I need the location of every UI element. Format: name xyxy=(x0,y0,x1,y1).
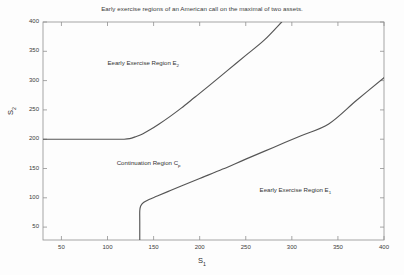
y-tick-label: 200 xyxy=(17,135,39,141)
x-tick-label: 400 xyxy=(371,244,397,250)
continuation-region-label: Continuation Region Cp xyxy=(117,159,181,168)
y-tick-label: 300 xyxy=(17,77,39,83)
x-tick-label: 300 xyxy=(279,244,305,250)
upper-region-label: Eearly Exercise Region E2 xyxy=(108,59,180,68)
y-tick-label: 150 xyxy=(17,165,39,171)
lower-region-label-subscript: 1 xyxy=(329,190,331,195)
x-axis-label-subscript: 1 xyxy=(203,261,206,267)
y-tick-label: 250 xyxy=(17,106,39,112)
x-tick-label: 50 xyxy=(48,244,74,250)
x-tick-label: 350 xyxy=(325,244,351,250)
y-tick-label: 350 xyxy=(17,47,39,53)
y-tick-marks xyxy=(43,22,384,227)
upper-region-label-subscript: 2 xyxy=(177,63,179,68)
x-tick-label: 100 xyxy=(95,244,121,250)
continuation-region-label-text: Continuation Region C xyxy=(117,159,178,166)
plot-area xyxy=(0,0,404,275)
axes-frame xyxy=(43,22,384,240)
y-axis-label-text: S xyxy=(6,110,15,115)
upper-region-label-text: Eearly Exercise Region E xyxy=(108,59,177,66)
x-tick-label: 150 xyxy=(141,244,167,250)
y-tick-label: 100 xyxy=(17,194,39,200)
continuation-region-label-subscript: p xyxy=(178,163,180,168)
y-tick-label: 50 xyxy=(17,223,39,229)
figure-canvas: Early exercise regions of an American ca… xyxy=(0,0,404,275)
y-axis-label: S2 xyxy=(6,107,17,115)
lower-region-label: Eearly Exercise Region E1 xyxy=(260,186,332,195)
x-tick-marks xyxy=(61,22,384,240)
y-axis-label-subscript: 2 xyxy=(11,107,17,110)
y-tick-label: 400 xyxy=(17,18,39,24)
upper-boundary-curve xyxy=(43,22,282,139)
x-tick-label: 200 xyxy=(187,244,213,250)
lower-region-label-text: Eearly Exercise Region E xyxy=(260,186,329,193)
x-axis-label: S1 xyxy=(0,256,404,267)
x-tick-label: 250 xyxy=(233,244,259,250)
